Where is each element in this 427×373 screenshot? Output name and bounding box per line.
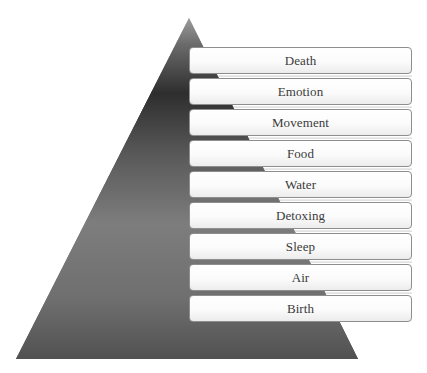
level-label: Death xyxy=(285,53,317,69)
level-sleep: Sleep xyxy=(189,233,412,260)
level-label: Air xyxy=(292,270,310,286)
level-detoxing: Detoxing xyxy=(189,202,412,229)
level-air: Air xyxy=(189,264,412,291)
level-label: Movement xyxy=(272,115,329,131)
level-label: Sleep xyxy=(286,239,315,255)
level-death: Death xyxy=(189,47,412,74)
level-birth: Birth xyxy=(189,295,412,322)
level-emotion: Emotion xyxy=(189,78,412,105)
level-movement: Movement xyxy=(189,109,412,136)
level-label: Detoxing xyxy=(276,208,325,224)
level-label: Food xyxy=(287,146,314,162)
pyramid-diagram: Death Emotion Movement Food Water Detoxi… xyxy=(0,0,427,373)
level-label: Water xyxy=(285,177,316,193)
level-water: Water xyxy=(189,171,412,198)
level-label: Birth xyxy=(287,301,314,317)
level-food: Food xyxy=(189,140,412,167)
level-label: Emotion xyxy=(278,84,323,100)
